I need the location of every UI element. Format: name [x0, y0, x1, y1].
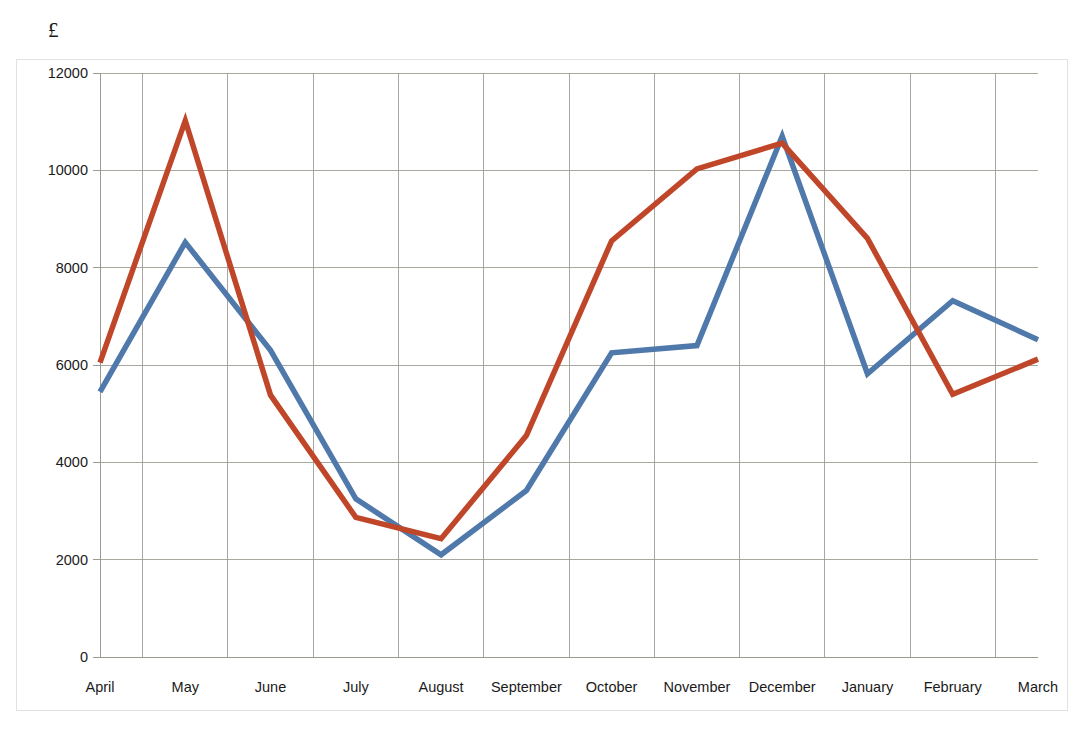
y-tick-label: 4000 — [18, 455, 88, 470]
plot-area — [0, 0, 1083, 745]
y-tick-label: 2000 — [18, 553, 88, 568]
y-tick-label: 0 — [18, 650, 88, 665]
y-tick-label: 12000 — [18, 66, 88, 81]
y-tick-label: 8000 — [18, 261, 88, 276]
line-chart: £ 020004000600080001000012000AprilMayJun… — [0, 0, 1083, 745]
y-tick-label: 10000 — [18, 163, 88, 178]
x-tick-label: March — [968, 680, 1083, 695]
y-tick-label: 6000 — [18, 358, 88, 373]
